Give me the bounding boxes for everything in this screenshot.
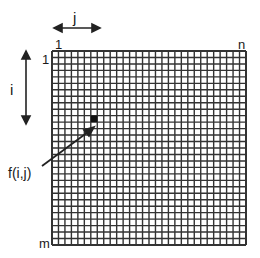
row-axis-label: i xyxy=(10,82,13,97)
element-label: f(i,j) xyxy=(8,166,31,180)
last-row-label: m xyxy=(39,237,50,250)
i-axis-arrow xyxy=(22,51,30,124)
col-axis-label: j xyxy=(73,10,76,25)
matrix-grid xyxy=(52,51,246,245)
j-axis-arrow xyxy=(54,24,100,32)
element-pointer-arrow xyxy=(42,127,94,166)
highlighted-cell xyxy=(91,116,97,122)
first-row-label: 1 xyxy=(42,53,49,66)
last-col-label: n xyxy=(238,38,245,51)
matrix-diagram xyxy=(0,0,260,258)
first-col-label: 1 xyxy=(55,38,62,51)
